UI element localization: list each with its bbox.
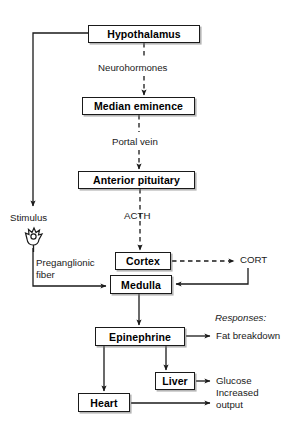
label-acth: ACTH	[124, 210, 150, 222]
node-epinephrine[interactable]: Epinephrine	[95, 327, 185, 346]
label-responses: Responses:	[215, 312, 266, 324]
sensory-receptor-icon	[26, 228, 43, 252]
node-cortex[interactable]: Cortex	[115, 252, 171, 270]
node-anterior-pituitary-label: Anterior pituitary	[93, 174, 180, 186]
node-medulla-label: Medulla	[121, 279, 161, 291]
label-cort: CORT	[240, 254, 267, 266]
edge-cort-to-medulla	[176, 268, 248, 284]
node-anterior-pituitary[interactable]: Anterior pituitary	[78, 171, 195, 189]
node-hypothalamus[interactable]: Hypothalamus	[88, 25, 200, 43]
node-median-eminence[interactable]: Median eminence	[82, 97, 195, 115]
label-glucose: Glucose	[216, 375, 252, 387]
label-portal-vein: Portal vein	[112, 136, 158, 148]
label-increased-output: Increased output	[216, 387, 276, 410]
label-stimulus: Stimulus	[10, 212, 47, 224]
node-median-eminence-label: Median eminence	[94, 100, 183, 112]
label-fat-breakdown: Fat breakdown	[216, 330, 280, 342]
endocrine-flow-diagram: Hypothalamus Median eminence Anterior pi…	[0, 0, 298, 431]
label-neurohormones: Neurohormones	[98, 62, 167, 74]
node-hypothalamus-label: Hypothalamus	[107, 28, 181, 40]
node-heart[interactable]: Heart	[78, 393, 130, 412]
node-heart-label: Heart	[90, 397, 117, 409]
node-medulla[interactable]: Medulla	[110, 275, 172, 294]
label-preganglionic-fiber: Preganglionic fiber	[36, 257, 102, 280]
node-liver[interactable]: Liver	[155, 372, 195, 390]
node-liver-label: Liver	[162, 375, 188, 387]
node-epinephrine-label: Epinephrine	[109, 331, 171, 343]
node-cortex-label: Cortex	[126, 255, 160, 267]
